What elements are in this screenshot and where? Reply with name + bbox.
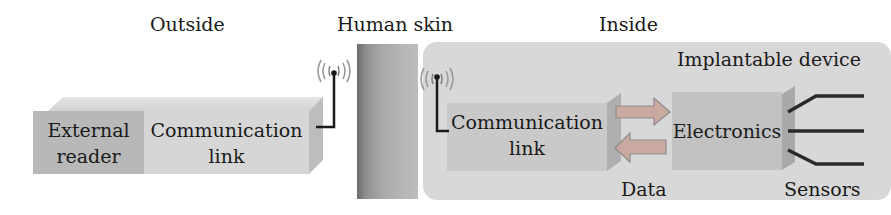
arrow-left-icon — [615, 133, 666, 162]
outside-antenna-wire — [316, 73, 334, 127]
arrow-right-icon — [616, 98, 670, 125]
sensor-lead-icon — [788, 96, 864, 164]
